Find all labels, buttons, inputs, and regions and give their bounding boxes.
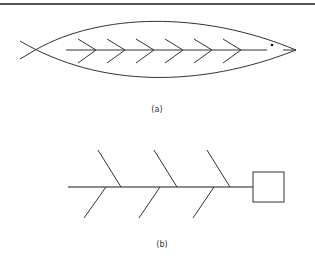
ishikawa-effect-box — [253, 172, 284, 202]
ishikawa-upper-bones — [98, 150, 230, 187]
fish-tail — [20, 49, 37, 59]
fishbone-diagrams — [0, 0, 315, 259]
figure-a-label: (a) — [151, 104, 162, 114]
fish-eye — [271, 44, 274, 47]
ishikawa-lower-bones — [84, 187, 214, 218]
fish-bones — [78, 39, 241, 63]
fish-lower-body — [20, 41, 296, 77]
fish-upper-body — [37, 21, 296, 50]
figure-a-fish — [20, 21, 296, 77]
figure-b-ishikawa — [68, 150, 284, 218]
figure-b-label: (b) — [156, 239, 167, 249]
